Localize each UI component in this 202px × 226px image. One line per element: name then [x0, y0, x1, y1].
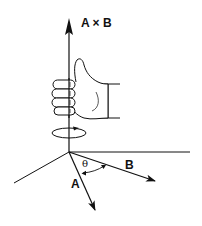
plane-line-left	[14, 152, 69, 183]
right-hand-rule-diagram: A × B B A θ	[0, 0, 202, 226]
vector-b-label: B	[125, 158, 134, 172]
vector-a-label: A	[71, 177, 80, 191]
cross-product-label: A × B	[81, 16, 112, 30]
angle-theta-label: θ	[82, 158, 88, 169]
right-hand-icon	[52, 59, 120, 119]
